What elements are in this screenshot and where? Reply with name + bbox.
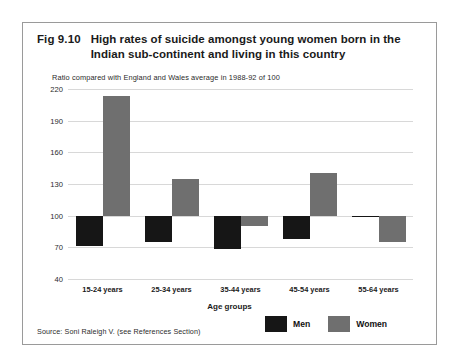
figure-subtitle: Ratio compared with England and Wales av… [52,73,280,82]
gridline: 220 [68,89,413,90]
x-axis-line [68,279,413,280]
bar-men-55-64 [352,216,379,217]
legend-label-women: Women [356,319,387,329]
y-axis-tick-label: 160 [50,148,63,157]
x-axis-tick-label: 55-64 years [358,285,398,294]
figure-number: Fig 9.10 [37,33,91,45]
gridline: 70 [68,247,413,248]
bar-men-15-24 [76,216,103,247]
legend-swatch-men-icon [265,316,287,332]
y-axis-tick-label: 220 [50,85,63,94]
y-axis-tick-label: 130 [50,180,63,189]
bar-men-45-54 [283,216,310,239]
figure-frame: Fig 9.10 High rates of suicide amongst y… [22,22,437,345]
x-axis-tick-label: 15-24 years [82,285,122,294]
x-axis-tick-label: 35-44 years [220,285,260,294]
y-axis-tick-label: 100 [50,211,63,220]
y-axis-tick-label: 190 [50,116,63,125]
source-note: Source: Soni Raleigh V. (see References … [37,327,201,336]
bar-women-15-24 [103,96,130,215]
legend-item-men: Men [265,316,310,332]
figure-title: High rates of suicide amongst young wome… [91,32,426,62]
legend-label-men: Men [293,319,310,329]
title-block: Fig 9.10 High rates of suicide amongst y… [37,32,426,62]
bar-women-45-54 [310,173,337,215]
bar-women-35-44 [241,216,268,227]
x-axis-tick-label: 45-54 years [289,285,329,294]
bar-men-35-44 [214,216,241,250]
x-axis-tick-label: 25-34 years [151,285,191,294]
bar-women-25-34 [172,179,199,216]
legend-swatch-women-icon [328,316,350,332]
bar-men-25-34 [145,216,172,242]
x-axis-title: Age groups [23,302,436,311]
plot-area: 4070100130160190220 [68,89,413,279]
chart-legend: Men Women [265,316,387,332]
legend-item-women: Women [328,316,387,332]
y-axis-tick-label: 40 [55,275,63,284]
bar-women-55-64 [379,216,406,242]
y-axis-tick-label: 70 [55,243,63,252]
